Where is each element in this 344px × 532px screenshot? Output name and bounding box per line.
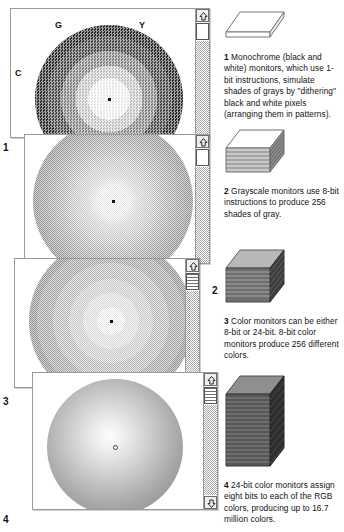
panel-3-canvas [15,259,185,387]
caption-4-number: 4 [224,480,229,490]
thin-stack-icon [224,128,342,180]
scrollbar-track[interactable] [196,41,209,137]
caption-4-text: 4 24-bit color monitors assign eight bit… [224,480,342,526]
caption-1-number: 1 [224,52,229,62]
medium-stack-icon [224,248,342,310]
scroll-up-arrow-icon[interactable] [204,373,217,386]
panel-2-canvas [25,135,195,263]
caption-block-1: 1 Monochrome (black and white) monitors,… [224,10,342,120]
wheel-label-green: G [55,21,62,30]
single-slab-icon [224,10,342,46]
color-wheel-24bit [47,379,183,509]
caption-block-2: 2 Grayscale monitors use 8-bit instructi… [224,128,342,220]
panel-1-canvas: G Y C R [11,9,195,137]
scroll-up-arrow-icon[interactable] [196,9,209,22]
caption-3-body: Color monitors can be either 8-bit or 24… [224,316,339,360]
caption-3-number: 3 [224,316,229,326]
panel-4-scrollbar[interactable] [203,373,217,509]
scrollbar-track[interactable] [204,405,217,495]
caption-1-body: Monochrome (black and white) monitors, w… [224,52,336,119]
scroll-up-arrow-icon[interactable] [186,259,199,272]
scrollbar-track[interactable] [196,167,209,263]
scrollbar-thumb[interactable] [204,387,217,404]
panel-number-3: 3 [3,396,9,407]
scrollbar-thumb[interactable] [196,149,209,166]
color-wheel-grayscale [33,135,193,263]
panel-4-canvas [33,373,203,509]
panel-3-scrollbar[interactable] [185,259,199,387]
wheel-center-dot-1 [108,98,111,101]
scroll-down-arrow-icon[interactable] [204,496,217,509]
caption-3-text: 3 Color monitors can be either 8-bit or … [224,316,342,362]
panel-number-1: 1 [3,142,9,153]
caption-1-text: 1 Monochrome (black and white) monitors,… [224,52,342,120]
panel-1-scrollbar[interactable] [195,9,209,137]
caption-block-4: 4 24-bit color monitors assign eight bit… [224,374,342,526]
panel-number-2: 2 [212,285,218,296]
figure-root: G Y C R 1 2 [0,0,344,532]
wheel-label-yellow: Y [139,21,145,30]
wheel-label-cyan: C [15,69,22,78]
caption-block-3: 3 Color monitors can be either 8-bit or … [224,248,342,362]
caption-2-number: 2 [224,186,229,196]
scrollbar-thumb[interactable] [186,273,199,290]
tall-stack-icon [224,374,342,474]
panel-2-scrollbar[interactable] [195,135,209,263]
scroll-up-arrow-icon[interactable] [196,135,209,148]
caption-4-body: 24-bit color monitors assign eight bits … [224,480,335,524]
wheel-center-dot-2 [112,200,115,203]
caption-2-body: Grayscale monitors use 8-bit instruction… [224,186,339,219]
window-panel-3[interactable] [14,258,200,388]
caption-2-text: 2 Grayscale monitors use 8-bit instructi… [224,186,342,220]
wheel-center-dot-4 [113,445,118,450]
window-panel-4[interactable] [32,372,218,510]
color-wheel-monochrome [35,25,183,137]
panel-number-4: 4 [3,514,9,525]
window-panel-2[interactable] [24,134,210,264]
wheel-center-dot-3 [110,320,113,323]
scrollbar-thumb[interactable] [196,23,209,40]
dither-overlay-1 [35,25,183,137]
color-wheel-8bit [29,259,185,387]
window-panel-1[interactable]: G Y C R [10,8,210,138]
dither-overlay-3 [29,259,185,387]
